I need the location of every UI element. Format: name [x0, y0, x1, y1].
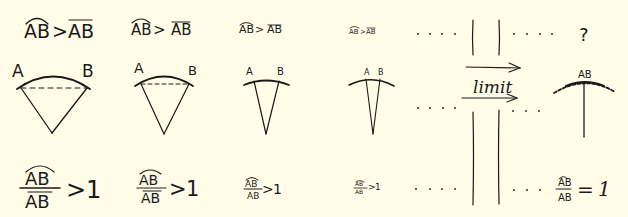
svg-text:AB: AB	[25, 191, 50, 212]
svg-text:A: A	[12, 61, 24, 81]
svg-text:A: A	[364, 68, 370, 77]
svg-text:>: >	[52, 20, 68, 42]
svg-text:1: 1	[598, 177, 611, 201]
svg-text:AB: AB	[558, 192, 572, 203]
svg-text:AB: AB	[349, 28, 359, 36]
sector-1: A B	[12, 61, 94, 133]
svg-text:B: B	[82, 61, 94, 81]
svg-text:AB: AB	[267, 23, 282, 36]
svg-text:AB: AB	[68, 20, 94, 42]
limit-ratio: AB AB = 1	[556, 177, 611, 204]
svg-text:AB: AB	[171, 21, 192, 39]
sector-4: A B	[349, 68, 394, 134]
svg-text:AB: AB	[247, 191, 259, 201]
svg-text:AB: AB	[139, 172, 158, 188]
ratio-3: AB AB > 1	[244, 178, 282, 202]
svg-text:B: B	[188, 63, 197, 78]
ellipsis-top-right	[513, 33, 553, 35]
ratio-1: AB AB > 1	[20, 166, 101, 212]
svg-text:AB: AB	[355, 188, 363, 195]
sector-2: A B	[134, 60, 197, 134]
svg-text:>: >	[153, 21, 166, 39]
svg-text:1: 1	[375, 182, 381, 192]
svg-text:B: B	[378, 68, 384, 77]
limit-arrow-top	[466, 63, 520, 72]
svg-text:>: >	[66, 176, 86, 204]
svg-text:AB: AB	[245, 179, 257, 189]
svg-text:AB: AB	[355, 180, 363, 187]
svg-text:AB: AB	[366, 28, 376, 36]
svg-text:1: 1	[86, 176, 101, 204]
svg-text:AB: AB	[239, 23, 254, 36]
ellipsis-bottom-left	[415, 188, 456, 190]
svg-text:AB: AB	[25, 168, 50, 189]
svg-text:>: >	[262, 181, 274, 197]
svg-text:1: 1	[273, 181, 282, 197]
svg-text:AB: AB	[24, 20, 50, 42]
ratio-2: AB AB > 1	[137, 170, 199, 206]
svg-text:AB: AB	[141, 190, 160, 206]
limit-barrier	[473, 20, 500, 205]
inequality-4: AB > AB	[349, 27, 376, 37]
ellipsis-mid-right	[512, 110, 540, 112]
svg-text:AB: AB	[558, 177, 572, 188]
svg-text:=: =	[577, 177, 594, 201]
svg-text:AB: AB	[131, 21, 152, 39]
svg-text:1: 1	[186, 177, 199, 201]
svg-text:>: >	[169, 177, 187, 201]
ellipsis-mid-left	[417, 107, 456, 109]
inequality-1: AB > AB	[24, 19, 94, 43]
limit-sector: AB	[554, 69, 615, 137]
ellipsis-top-left	[417, 33, 456, 35]
svg-text:>: >	[255, 23, 264, 36]
sector-3: A B	[244, 66, 289, 134]
inequality-2: AB > AB	[131, 19, 192, 39]
svg-text:B: B	[277, 66, 284, 77]
unknown-result: ?	[579, 24, 589, 45]
ratio-4: AB AB > 1	[354, 180, 381, 195]
svg-text:A: A	[246, 66, 253, 77]
inequality-3: AB > AB	[239, 23, 282, 37]
arc-chord-limit-diagram: AB > AB AB > AB AB > AB AB > AB ? A B	[0, 0, 628, 217]
ellipsis-bottom-right	[513, 189, 541, 191]
svg-text:AB: AB	[578, 69, 592, 80]
svg-text:A: A	[134, 60, 144, 76]
